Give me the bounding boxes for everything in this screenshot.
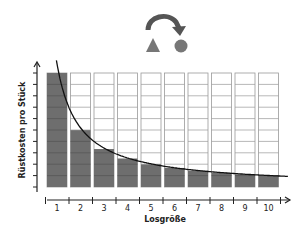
bar bbox=[118, 159, 138, 188]
bar bbox=[188, 171, 208, 187]
x-tick-label: 9 bbox=[242, 204, 247, 213]
bar bbox=[71, 130, 91, 187]
bar bbox=[94, 149, 114, 187]
circle-icon bbox=[175, 40, 188, 53]
swap-shapes-icon bbox=[146, 16, 188, 52]
x-tick-label: 7 bbox=[195, 204, 200, 213]
x-tick-label: 6 bbox=[172, 204, 177, 213]
x-tick-label: 2 bbox=[78, 204, 83, 213]
column-9 bbox=[235, 73, 255, 187]
y-axis-label: Rüstkosten pro Stück bbox=[18, 81, 27, 179]
x-tick-label: 8 bbox=[219, 204, 224, 213]
column-1 bbox=[47, 73, 67, 187]
bar bbox=[212, 173, 232, 187]
x-tick-label: 10 bbox=[263, 204, 273, 213]
column-3 bbox=[94, 73, 114, 187]
column-8 bbox=[212, 73, 232, 187]
x-tick-label: 5 bbox=[148, 204, 153, 213]
arrow-head-icon bbox=[172, 26, 186, 36]
x-tick-label: 1 bbox=[54, 204, 59, 213]
column-5 bbox=[141, 73, 161, 187]
chart-canvas: Rüstkosten pro Stück 12345678910 Losgröß… bbox=[0, 0, 306, 239]
column-6 bbox=[165, 73, 185, 187]
triangle-icon bbox=[146, 38, 160, 52]
bar bbox=[235, 174, 255, 187]
column-2 bbox=[71, 73, 91, 187]
bar bbox=[259, 176, 279, 187]
x-axis-label: Losgröße bbox=[144, 215, 186, 224]
x-tick-label: 4 bbox=[125, 204, 130, 213]
bar bbox=[165, 168, 185, 187]
column-10 bbox=[259, 73, 279, 187]
column-4 bbox=[118, 73, 138, 187]
x-tick-label: 3 bbox=[101, 204, 106, 213]
